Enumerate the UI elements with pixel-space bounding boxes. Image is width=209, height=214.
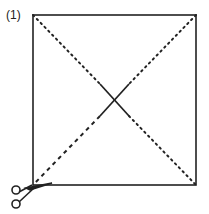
scissors-icon — [12, 183, 52, 208]
diagonal-dotted-tl — [33, 15, 100, 84]
diagonal-dotted-br — [129, 116, 196, 185]
diagonal-dotted-tr — [129, 15, 196, 84]
diagonal-dashed-bl — [33, 116, 100, 185]
folding-diagram — [0, 0, 209, 214]
